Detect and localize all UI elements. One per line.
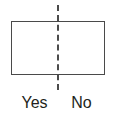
vertical-dashed-divider-line <box>57 5 59 90</box>
label-no: No <box>58 93 105 113</box>
labels-row: Yes No <box>0 93 115 115</box>
label-yes: Yes <box>11 93 58 113</box>
figure-canvas: Yes No <box>0 0 115 115</box>
